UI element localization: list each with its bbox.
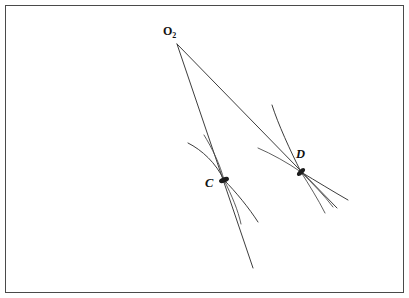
arc-c-lower-outer	[224, 180, 258, 222]
point-label-o2-subscript: 2	[172, 31, 176, 40]
ray-o2-to-d	[177, 44, 337, 208]
point-label-d: D	[296, 148, 305, 161]
point-label-c: C	[205, 177, 213, 190]
arc-c-lower-inner	[224, 180, 241, 224]
geometry-figure: O2 C D	[0, 0, 409, 298]
arc-c-upper-left	[188, 143, 224, 180]
arc-d-lower-middle	[301, 172, 333, 207]
point-label-o2-main: O	[163, 24, 172, 38]
arc-d-upper-steep	[272, 105, 301, 172]
point-label-o2: O2	[163, 25, 176, 40]
figure-border	[6, 6, 404, 293]
figure-canvas	[0, 0, 409, 298]
